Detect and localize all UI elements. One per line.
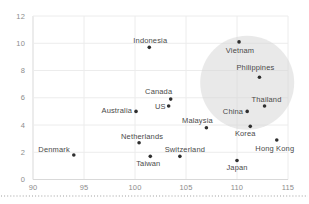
- data-point-hong-kong: [275, 138, 279, 142]
- y-tick-label-6: 6: [21, 93, 25, 102]
- point-label-philippines: Philippines: [236, 63, 274, 72]
- x-tick-label-95: 95: [80, 183, 89, 192]
- scatter-chart: DenmarkIndonesiaVietnamPhilippinesCanada…: [0, 0, 309, 204]
- data-point-japan: [235, 159, 239, 163]
- x-tick-label-115: 115: [282, 183, 294, 192]
- x-tick-label-105: 105: [180, 183, 193, 192]
- point-label-netherlands: Netherlands: [121, 132, 163, 141]
- y-tick-label-2: 2: [21, 148, 25, 157]
- data-point-philippines: [258, 76, 262, 80]
- point-label-vietnam: Vietnam: [226, 46, 254, 55]
- x-tick-label-90: 90: [29, 183, 38, 192]
- y-tick-label-4: 4: [21, 121, 25, 130]
- point-label-australia: Australia: [101, 106, 132, 115]
- data-point-netherlands: [137, 141, 141, 145]
- y-tick-label-10: 10: [16, 39, 25, 48]
- data-point-australia: [134, 110, 138, 114]
- y-tick-label-12: 12: [16, 12, 25, 21]
- data-point-malaysia: [205, 126, 209, 130]
- point-label-thailand: Thailand: [252, 95, 282, 104]
- scatter-plot-svg: DenmarkIndonesiaVietnamPhilippinesCanada…: [0, 0, 309, 204]
- data-point-denmark: [72, 153, 76, 157]
- point-label-taiwan: Taiwan: [136, 159, 160, 168]
- x-tick-label-110: 110: [231, 183, 243, 192]
- data-point-indonesia: [147, 46, 151, 50]
- point-label-japan: Japan: [226, 163, 247, 172]
- data-point-taiwan: [149, 155, 153, 159]
- point-label-switzerland: Switzerland: [165, 145, 205, 154]
- point-label-denmark: Denmark: [38, 145, 70, 154]
- data-point-korea: [248, 125, 252, 129]
- data-point-canada: [169, 97, 173, 101]
- point-label-hong-kong: Hong Kong: [255, 144, 294, 153]
- data-point-thailand: [263, 104, 267, 108]
- data-point-china: [245, 110, 249, 114]
- data-point-us: [167, 104, 171, 108]
- point-label-korea: Korea: [235, 129, 256, 138]
- data-point-switzerland: [178, 155, 182, 159]
- data-point-vietnam: [237, 40, 241, 44]
- y-tick-label-8: 8: [21, 66, 25, 75]
- point-label-us: US: [155, 102, 166, 111]
- y-tick-label-0: 0: [21, 175, 25, 184]
- point-label-indonesia: Indonesia: [133, 36, 168, 45]
- point-label-malaysia: Malaysia: [182, 116, 213, 125]
- point-label-china: China: [223, 107, 244, 116]
- point-label-canada: Canada: [145, 87, 173, 96]
- x-tick-label-100: 100: [129, 183, 142, 192]
